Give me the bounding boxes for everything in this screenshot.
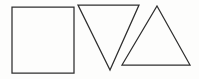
- canvas-background: [0, 0, 199, 79]
- shapes-svg: [0, 0, 199, 79]
- shapes-canvas: [0, 0, 199, 79]
